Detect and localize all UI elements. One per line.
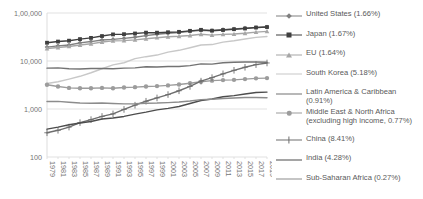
data-point-marker: [144, 31, 148, 35]
x-axis-tick-label: 1993: [125, 161, 134, 177]
data-point-marker: [221, 28, 225, 32]
data-point-marker: [122, 85, 126, 89]
legend-item-5[interactable]: Latin America & Caribbean (0.91%): [276, 87, 423, 107]
legend-marker-icon: [276, 135, 302, 146]
data-point-marker: [243, 27, 247, 31]
data-point-marker: [155, 84, 159, 88]
legend-item-label: South Korea (5.18%): [302, 68, 377, 77]
legend-marker-icon: [276, 88, 302, 99]
data-point-marker: [111, 86, 115, 90]
data-point-marker: [89, 86, 93, 90]
x-axis-tick-label: 1981: [59, 161, 68, 177]
y-axis-tick-label: 10,000: [20, 57, 42, 66]
x-axis-tick-label: 1995: [136, 161, 145, 177]
data-point-marker: [265, 25, 269, 29]
data-point-marker: [232, 78, 236, 82]
legend-marker-icon: [276, 10, 302, 21]
data-point-marker: [56, 40, 60, 44]
legend-item-4[interactable]: South Korea (5.18%): [276, 68, 423, 88]
x-axis-tick-label: 2015: [246, 161, 255, 177]
legend-item-label: EU (1.64%): [302, 48, 345, 57]
x-axis-tick-label: 2017: [257, 161, 266, 177]
x-axis-tick-label: 1997: [147, 161, 156, 177]
data-point-marker: [166, 83, 170, 87]
data-point-marker: [177, 82, 181, 86]
x-axis-tick-label: 2009: [213, 161, 222, 177]
data-point-marker: [56, 84, 60, 88]
data-point-marker: [177, 30, 181, 34]
plus-marker-icon: [288, 137, 289, 144]
data-point-marker: [100, 34, 104, 38]
data-point-marker: [67, 39, 71, 43]
diamond-marker-icon: [286, 13, 292, 19]
y-axis-tick-label: 1,00,000: [14, 9, 42, 18]
chart-legend: United States (1.66%)Japan (1.67%)EU (1.…: [276, 9, 423, 192]
data-point-marker: [254, 76, 258, 80]
x-axis-tick-label: 1979: [48, 161, 57, 177]
data-point-marker: [254, 26, 258, 30]
data-point-marker: [199, 28, 203, 32]
legend-item-label: India (4.28%): [302, 153, 351, 162]
legend-item-6[interactable]: Middle East & North Africa (excluding hi…: [276, 107, 423, 134]
data-point-marker: [265, 76, 269, 80]
square-marker-icon: [287, 33, 292, 38]
legend-marker-icon: [276, 69, 302, 80]
x-axis-tick-label: 1987: [92, 161, 101, 177]
data-point-marker: [133, 32, 137, 36]
x-axis-tick-label: 1991: [114, 161, 123, 177]
x-axis-tick-label: 2013: [235, 161, 244, 177]
triangle-marker-icon: [286, 52, 292, 57]
legend-item-label: Latin America & Caribbean (0.91%): [302, 87, 423, 106]
data-point-marker: [67, 86, 71, 90]
legend-item-2[interactable]: Japan (1.67%): [276, 29, 423, 49]
legend-item-label: United States (1.66%): [302, 9, 380, 18]
legend-marker-icon: [276, 174, 302, 185]
data-point-marker: [221, 78, 225, 82]
data-point-marker: [133, 85, 137, 89]
legend-item-3[interactable]: EU (1.64%): [276, 48, 423, 68]
data-point-marker: [78, 37, 82, 41]
x-axis-tick-label: 2019: [268, 161, 272, 177]
x-axis-tick-label: 2007: [202, 161, 211, 177]
data-point-marker: [166, 30, 170, 34]
legend-item-label: Japan (1.67%): [302, 29, 355, 38]
data-point-marker: [100, 86, 104, 90]
data-point-marker: [89, 36, 93, 40]
data-point-marker: [45, 83, 49, 87]
x-axis-tick-label: 2011: [224, 161, 233, 176]
legend-item-9[interactable]: Sub-Saharan Africa (0.27%): [276, 173, 423, 193]
x-axis-tick-label: 1989: [103, 161, 112, 177]
legend-marker-icon: [276, 30, 302, 41]
legend-marker-icon: [276, 154, 302, 165]
data-point-marker: [144, 84, 148, 88]
data-point-marker: [210, 29, 214, 33]
data-point-marker: [111, 33, 115, 37]
x-axis-tick-label: 2005: [191, 161, 200, 177]
x-axis-tick-label: 2001: [169, 161, 178, 177]
x-axis-tick-label: 1985: [81, 161, 90, 177]
y-axis-tick-label: 100: [30, 153, 42, 162]
x-axis-tick-label: 2003: [180, 161, 189, 177]
chart-root: 1001,00010,0001,00,000197919811983198519…: [0, 0, 423, 199]
legend-item-7[interactable]: China (8.41%): [276, 134, 423, 154]
legend-marker-icon: [276, 49, 302, 60]
data-point-marker: [122, 32, 126, 36]
data-point-marker: [188, 29, 192, 33]
legend-marker-icon: [276, 108, 302, 119]
legend-item-label: Middle East & North Africa (excluding hi…: [302, 107, 412, 126]
data-point-marker: [232, 27, 236, 31]
data-point-marker: [155, 31, 159, 35]
line-chart-svg: 1001,00010,0001,00,000197919811983198519…: [0, 0, 272, 199]
y-axis-tick-label: 1,000: [24, 105, 42, 114]
data-point-marker: [78, 86, 82, 90]
x-axis-tick-label: 1983: [70, 161, 79, 177]
x-axis-tick-label: 1999: [158, 161, 167, 177]
plot-area: 1001,00010,0001,00,000197919811983198519…: [0, 0, 272, 199]
circle-marker-icon: [287, 111, 292, 116]
data-point-marker: [45, 41, 49, 45]
legend-item-label: China (8.41%): [302, 134, 355, 143]
legend-item-8[interactable]: India (4.28%): [276, 153, 423, 173]
data-point-marker: [243, 77, 247, 81]
legend-item-1[interactable]: United States (1.66%): [276, 9, 423, 29]
legend-item-label: Sub-Saharan Africa (0.27%): [302, 173, 401, 182]
